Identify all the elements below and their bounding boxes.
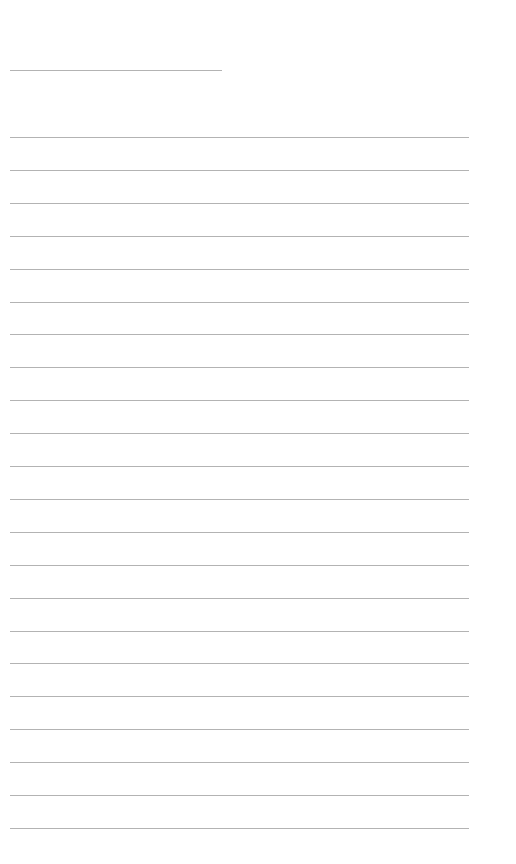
writing-line — [10, 236, 469, 237]
writing-line — [10, 598, 469, 599]
writing-line — [10, 729, 469, 730]
writing-line — [10, 433, 469, 434]
writing-line — [10, 631, 469, 632]
writing-line — [10, 203, 469, 204]
writing-line — [10, 302, 469, 303]
writing-line — [10, 696, 469, 697]
writing-line — [10, 663, 469, 664]
writing-line — [10, 334, 469, 335]
writing-line — [10, 269, 469, 270]
writing-line — [10, 137, 469, 138]
writing-line — [10, 828, 469, 829]
writing-line — [10, 565, 469, 566]
writing-line — [10, 170, 469, 171]
writing-line — [10, 499, 469, 500]
writing-line — [10, 466, 469, 467]
writing-line — [10, 532, 469, 533]
title-line — [10, 70, 222, 71]
writing-line — [10, 795, 469, 796]
writing-line — [10, 367, 469, 368]
writing-line — [10, 400, 469, 401]
writing-line — [10, 762, 469, 763]
